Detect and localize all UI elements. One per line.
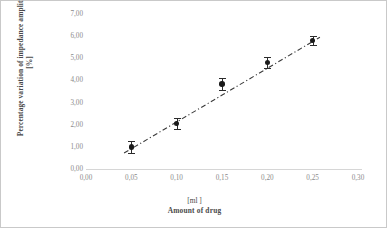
y-tick-label: 0,00 [43, 165, 83, 173]
y-axis-title: Percentage variation of impedance amplit… [16, 0, 35, 142]
x-tick-label: 0,30 [338, 174, 378, 182]
trendline [86, 14, 358, 169]
data-point [219, 81, 225, 87]
error-bar-cap [264, 68, 271, 69]
y-tick-label: 4,00 [43, 76, 83, 84]
y-tick-label: 7,00 [43, 10, 83, 18]
error-bar-cap [128, 141, 135, 142]
x-axis-name: Amount of drug [1, 206, 387, 216]
x-axis-title: [ml ] Amount of drug [1, 196, 387, 216]
x-tick-label: 0,10 [157, 174, 197, 182]
data-point [129, 144, 135, 150]
trendline-path [124, 37, 320, 153]
x-tick-label: 0,20 [247, 174, 287, 182]
error-bar-cap [310, 36, 317, 37]
x-tick-label: 0,25 [293, 174, 333, 182]
error-bar-cap [219, 78, 226, 79]
x-axis-unit: [ml ] [1, 196, 387, 206]
y-tick-label: 5,00 [43, 54, 83, 62]
error-bar-cap [128, 153, 135, 154]
x-tick-label: 0,05 [111, 174, 151, 182]
y-tick-label: 3,00 [43, 99, 83, 107]
error-bar-cap [174, 118, 181, 119]
x-axis-line [86, 169, 362, 170]
error-bar-cap [310, 45, 317, 46]
y-tick-label: 2,00 [43, 121, 83, 129]
y-axis-tick-labels: 0,001,002,003,004,005,006,007,00 [41, 14, 83, 169]
error-bar-cap [174, 129, 181, 130]
y-tick-label: 1,00 [43, 143, 83, 151]
chart-figure: Percentage variation of impedance amplit… [0, 0, 387, 228]
x-tick-label: 0,15 [202, 174, 242, 182]
x-tick-label: 0,00 [66, 174, 106, 182]
plot-area [86, 14, 358, 169]
y-tick-label: 6,00 [43, 32, 83, 40]
x-axis-tick-labels: 0,000,050,100,150,200,250,30 [86, 174, 358, 186]
error-bar-cap [219, 90, 226, 91]
error-bar-cap [264, 57, 271, 58]
